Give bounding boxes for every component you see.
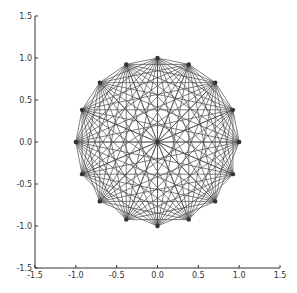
graph-node — [231, 172, 235, 176]
x-tick-label: 0.0 — [151, 271, 164, 280]
graph-node — [124, 62, 128, 66]
y-tick-label: 1.5 — [19, 12, 32, 21]
x-tick-label: 0.5 — [192, 271, 205, 280]
y-tick-label: 0.0 — [19, 138, 32, 147]
graph-node — [155, 224, 159, 228]
y-tick-label: -0.5 — [16, 180, 32, 189]
graph-node — [155, 56, 159, 60]
x-tick-label: 1.5 — [274, 271, 287, 280]
x-tick-label: -1.0 — [68, 271, 84, 280]
graph-node — [237, 140, 241, 144]
graph-node — [231, 108, 235, 112]
x-tick-label: -0.5 — [109, 271, 125, 280]
graph-node — [98, 199, 102, 203]
y-tick-label: -1.5 — [16, 264, 32, 273]
graph-node — [155, 140, 159, 144]
y-tick-label: 0.5 — [19, 96, 32, 105]
graph-node — [187, 62, 191, 66]
graph-node — [187, 217, 191, 221]
graph-node — [124, 217, 128, 221]
x-axis-ticks: -1.5-1.0-0.50.00.51.01.5 — [27, 265, 286, 280]
x-tick-label: 1.0 — [233, 271, 246, 280]
graph-node — [74, 140, 78, 144]
graph-node — [80, 172, 84, 176]
y-tick-label: 1.0 — [19, 54, 32, 63]
graph-node — [213, 80, 217, 84]
graph-node — [98, 80, 102, 84]
graph-plot: -1.5-1.0-0.50.00.51.01.5 -1.5-1.0-0.50.0… — [0, 0, 297, 293]
y-tick-label: -1.0 — [16, 222, 32, 231]
graph-node — [213, 199, 217, 203]
graph-node — [80, 108, 84, 112]
